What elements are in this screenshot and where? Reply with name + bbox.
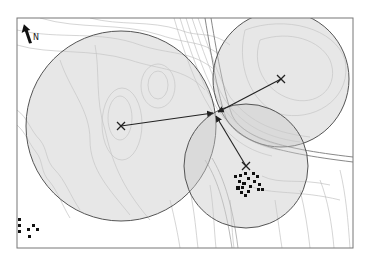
map-figure: N: [0, 0, 371, 261]
north-label: N: [33, 33, 39, 42]
